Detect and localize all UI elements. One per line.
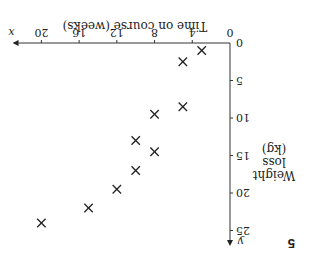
x-axis-arrow-icon [13, 40, 19, 46]
x-tick-label: 4 [189, 26, 196, 39]
x-tick-label: 16 [72, 26, 86, 39]
data-point-x-marker [198, 46, 206, 54]
y-axis-arrow-icon [227, 240, 233, 246]
chart-figure: 5 Weight loss (kg) Time on course (weeks… [0, 0, 309, 259]
x-axis-letter: x [8, 26, 15, 39]
data-point-x-marker [113, 185, 121, 193]
data-point-x-marker [132, 136, 140, 144]
x-tick-label: 12 [110, 26, 124, 39]
x-tick-label: 8 [151, 26, 158, 39]
data-point-x-marker [37, 219, 45, 227]
data-point-x-marker [179, 58, 187, 66]
y-tick-label: 0 [236, 36, 243, 49]
y-tick-label: 5 [236, 74, 243, 87]
x-tick-label: 20 [34, 26, 48, 39]
scatter-plot: 0481216200510152025xy [0, 0, 309, 259]
y-axis-letter: y [237, 235, 245, 248]
y-tick-label: 10 [236, 111, 250, 124]
data-point-x-marker [150, 148, 158, 156]
y-tick-label: 20 [236, 186, 250, 199]
data-point-x-marker [179, 103, 187, 111]
data-point-x-marker [150, 110, 158, 118]
y-tick-label: 15 [236, 149, 250, 162]
data-point-x-marker [132, 166, 140, 174]
x-tick-label: 0 [227, 26, 234, 39]
data-point-x-marker [84, 204, 92, 212]
